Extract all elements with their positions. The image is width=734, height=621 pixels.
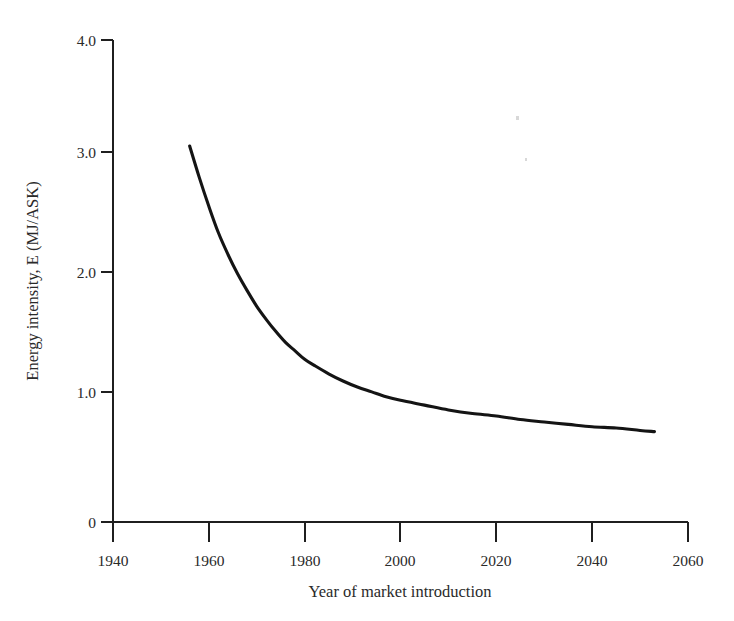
x-tick-label-2020: 2020 <box>481 552 512 569</box>
x-tick-label-2040: 2040 <box>577 552 608 569</box>
scan-speck <box>525 158 527 161</box>
data-series-line <box>190 146 655 432</box>
y-tick-label-1: 1.0 <box>77 384 97 401</box>
chart-figure: 4.0 3.0 2.0 1.0 0 1940 1960 1980 2000 20… <box>0 0 734 621</box>
y-tick-label-2: 2.0 <box>77 264 97 281</box>
x-tick-label-1960: 1960 <box>194 552 225 569</box>
x-tick-label-1980: 1980 <box>290 552 321 569</box>
scan-speck <box>516 116 519 120</box>
y-tick-label-4: 4.0 <box>77 32 97 49</box>
y-axis-title: Energy intensity, E (MJ/ASK) <box>23 181 42 380</box>
x-tick-label-2000: 2000 <box>385 552 416 569</box>
x-axis-title: Year of market introduction <box>309 582 492 601</box>
y-tick-label-3: 3.0 <box>77 144 97 161</box>
y-tick-label-0: 0 <box>88 514 96 531</box>
x-tick-label-1940: 1940 <box>98 552 129 569</box>
x-tick-label-2060: 2060 <box>673 552 704 569</box>
chart-plot-area: 4.0 3.0 2.0 1.0 0 1940 1960 1980 2000 20… <box>0 0 734 621</box>
